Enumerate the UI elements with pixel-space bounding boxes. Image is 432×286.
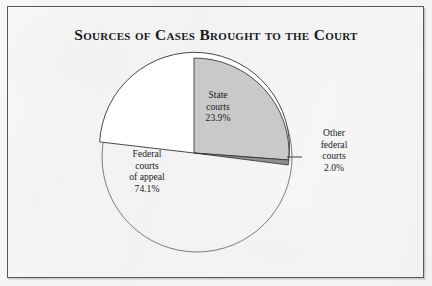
slice-label-other-federal-courts-line3: courts [303, 150, 365, 162]
slice-label-state-courts-line2: courts [186, 101, 250, 113]
slice-label-federal-courts-of-appeal-line1: Federal [108, 148, 186, 160]
slice-label-state-courts: State courts 23.9% [186, 89, 250, 124]
slice-label-federal-courts-of-appeal-value: 74.1% [108, 183, 186, 195]
pie-chart-figure: Sources of Cases Brought to the Court Fe… [0, 0, 432, 286]
slice-label-federal-courts-of-appeal-line3: of appeal [108, 171, 186, 183]
pie-chart-graphic: Federal courts of appeal 74.1% State cou… [0, 0, 432, 286]
slice-label-state-courts-line1: State [186, 89, 250, 101]
slice-label-other-federal-courts-line2: federal [303, 139, 365, 151]
slice-label-other-federal-courts: Other federal courts 2.0% [303, 127, 365, 173]
slice-label-other-federal-courts-line1: Other [303, 127, 365, 139]
slice-label-other-federal-courts-value: 2.0% [303, 162, 365, 174]
slice-label-federal-courts-of-appeal-line2: courts [108, 160, 186, 172]
slice-label-federal-courts-of-appeal: Federal courts of appeal 74.1% [108, 148, 186, 194]
slice-label-state-courts-value: 23.9% [186, 112, 250, 124]
